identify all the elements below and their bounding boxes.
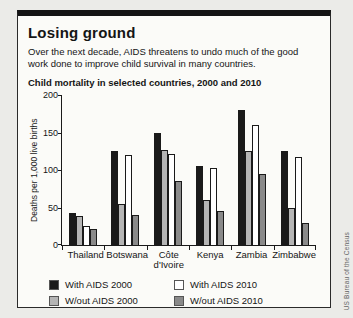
legend: With AIDS 2000With AIDS 2010W/out AIDS 2… (28, 279, 320, 306)
bar (154, 133, 161, 246)
bar (217, 211, 224, 245)
legend-label: W/out AIDS 2010 (190, 295, 263, 306)
y-tick-label: 150 (43, 128, 58, 137)
bar (168, 154, 175, 246)
bar (132, 215, 139, 245)
y-tick-label: 100 (43, 166, 58, 175)
x-category-label: Zimbabwe (272, 250, 316, 270)
bar (245, 151, 252, 245)
legend-label: With AIDS 2000 (65, 279, 132, 290)
bar (259, 174, 266, 245)
bar (83, 226, 90, 245)
bar (90, 229, 97, 246)
chart-title: Child mortality in selected countries, 2… (28, 77, 320, 88)
legend-swatch (49, 280, 59, 290)
bar (295, 157, 302, 246)
bar (238, 110, 245, 245)
x-tick-mark (274, 246, 275, 250)
bar (203, 200, 210, 245)
x-category-label: Thailand (65, 250, 106, 270)
bar (252, 125, 259, 245)
x-category-label: Botswana (106, 250, 148, 270)
bar-group (62, 95, 104, 245)
bar (118, 204, 125, 245)
x-tick-mark (104, 246, 105, 250)
x-tick-mark (189, 246, 190, 250)
bar (288, 208, 295, 246)
legend-item: With AIDS 2010 (174, 279, 299, 290)
subtitle: Over the next decade, AIDS threatens to … (28, 46, 320, 69)
y-tick-mark (58, 170, 62, 171)
bar-group (189, 95, 231, 245)
bar-groups (62, 95, 316, 245)
bar-group (147, 95, 189, 245)
legend-swatch (49, 296, 59, 306)
infographic-panel: Losing ground Over the next decade, AIDS… (17, 10, 331, 308)
bar-group (104, 95, 146, 245)
y-axis-title: Deaths per 1,000 live births (28, 95, 39, 245)
x-category-label: Côte d'Ivoire (148, 250, 189, 270)
bar (196, 166, 203, 245)
bar (175, 181, 182, 245)
bar (111, 151, 118, 245)
bar (302, 223, 309, 245)
plot-area (61, 95, 316, 246)
bar-group (274, 95, 316, 245)
bar (125, 155, 132, 245)
y-tick-label: 50 (48, 203, 58, 212)
bar (76, 216, 83, 245)
y-tick-label: 200 (43, 91, 58, 100)
bar (210, 168, 217, 245)
y-tick-mark (58, 208, 62, 209)
x-tick-mark (147, 246, 148, 250)
y-tick-mark (58, 133, 62, 134)
y-tick-label: 0 (53, 241, 58, 250)
x-category-label: Zambia (231, 250, 272, 270)
bar (69, 213, 76, 245)
legend-item: W/out AIDS 2010 (174, 295, 299, 306)
x-category-label: Kenya (189, 250, 230, 270)
legend-swatch (174, 296, 184, 306)
bar-group (231, 95, 273, 245)
source-credit: US Bureau of the Census (343, 232, 350, 310)
legend-label: W/out AIDS 2000 (65, 295, 138, 306)
bar (281, 151, 288, 246)
x-tick-mark (231, 246, 232, 250)
y-tick-mark (58, 95, 62, 96)
x-tick-mark (315, 246, 316, 250)
bar (161, 150, 168, 245)
legend-label: With AIDS 2010 (190, 279, 257, 290)
x-tick-mark (62, 246, 63, 250)
legend-item: With AIDS 2000 (49, 279, 174, 290)
legend-item: W/out AIDS 2000 (49, 295, 174, 306)
page-title: Losing ground (28, 24, 320, 41)
chart: Deaths per 1,000 live births 20015010050… (28, 95, 320, 246)
y-tick-mark (58, 244, 62, 245)
legend-swatch (174, 280, 184, 290)
x-axis-labels: ThailandBotswanaCôte d'IvoireKenyaZambia… (65, 246, 316, 270)
